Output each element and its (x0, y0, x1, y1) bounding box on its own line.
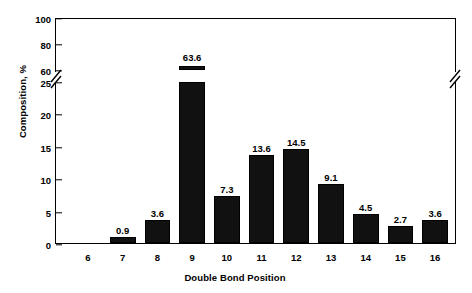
x-axis-tick-label: 6 (85, 252, 90, 263)
bar (353, 214, 379, 243)
x-axis-tick-label: 10 (222, 252, 233, 263)
x-axis-tick-label: 13 (326, 252, 337, 263)
bar-value-label: 14.5 (287, 137, 306, 148)
x-axis-title: Double Bond Position (55, 272, 415, 283)
bar-value-label: 63.6 (183, 52, 202, 63)
bar-value-label: 9.1 (324, 172, 337, 183)
axis-break-icon (447, 64, 462, 84)
x-axis-tick-label: 12 (291, 252, 302, 263)
bar (422, 220, 448, 243)
bar-value-label: 3.6 (151, 208, 164, 219)
y-axis-tick-label: 15 (40, 142, 51, 153)
axis-break-icon (48, 64, 63, 84)
bar (318, 184, 344, 243)
x-axis-tick-label: 8 (155, 252, 160, 263)
y-axis-tick-label: 20 (40, 110, 51, 121)
y-axis-tick-label: 100 (35, 14, 51, 25)
x-axis-tick-label: 7 (120, 252, 125, 263)
y-axis-tick-label: 10 (40, 175, 51, 186)
y-axis-tick-mark (56, 18, 62, 19)
bar (214, 196, 240, 243)
y-axis-tick-mark (56, 44, 62, 45)
bar-value-label: 3.6 (429, 208, 442, 219)
y-axis-tick-mark (56, 147, 62, 148)
bar (388, 226, 414, 243)
bar (110, 237, 136, 243)
x-axis-tick-label: 15 (395, 252, 406, 263)
y-axis-tick-label: 0 (46, 240, 51, 251)
bar-chart-figure: Composition, % 05101520256080100670.983.… (0, 0, 472, 293)
y-axis-tick-label: 5 (46, 207, 51, 218)
bar-value-label: 13.6 (252, 143, 271, 154)
x-axis-tick-label: 9 (189, 252, 194, 263)
x-axis-tick-label: 11 (257, 252, 267, 263)
bar-value-label: 4.5 (359, 202, 372, 213)
y-axis-tick-mark (56, 115, 62, 116)
y-axis-tick-mark (56, 212, 62, 213)
y-axis-tick-mark (56, 179, 62, 180)
bar-upper-segment (179, 66, 205, 70)
x-axis-tick-label: 16 (430, 252, 441, 263)
bar (249, 155, 275, 243)
y-axis-tick-label: 80 (40, 40, 51, 51)
plot-area: 05101520256080100670.983.6963.6107.31113… (55, 18, 456, 244)
bar-value-label: 2.7 (394, 214, 407, 225)
y-axis-title: Composition, % (17, 32, 28, 172)
bar (145, 220, 171, 243)
bar-value-label: 0.9 (116, 225, 129, 236)
bar-lower-segment (179, 82, 205, 243)
bar-value-label: 7.3 (220, 184, 233, 195)
bar (283, 149, 309, 243)
y-axis-tick-mark (56, 244, 62, 245)
x-axis-tick-label: 14 (360, 252, 371, 263)
